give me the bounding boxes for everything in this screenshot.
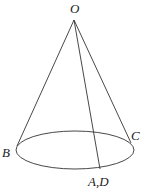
label-A-D: A,D xyxy=(87,174,109,189)
cone-diagram: O B C A,D xyxy=(0,0,147,194)
line-OC xyxy=(74,20,131,143)
line-OB xyxy=(17,20,74,146)
label-apex-O: O xyxy=(70,1,80,16)
line-OA xyxy=(74,20,100,169)
label-B: B xyxy=(2,145,10,160)
cone-base-ellipse xyxy=(16,131,134,169)
label-C: C xyxy=(131,128,140,143)
